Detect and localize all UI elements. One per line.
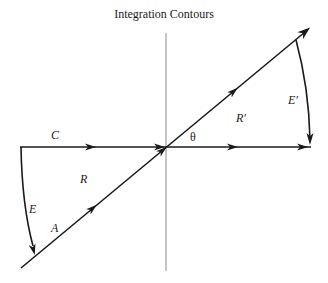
label-r: R <box>79 172 88 186</box>
label-theta: θ <box>190 130 196 144</box>
contour-e-arc <box>21 147 33 246</box>
contour-e-prime-arc <box>296 40 310 140</box>
label-e: E <box>28 202 37 216</box>
label-r-prime: R′ <box>235 111 246 125</box>
label-a: A <box>50 221 59 235</box>
contour-diagram: C R E A θ R′ E′ <box>0 0 328 283</box>
label-e-prime: E′ <box>287 93 298 107</box>
label-c: C <box>51 128 60 142</box>
